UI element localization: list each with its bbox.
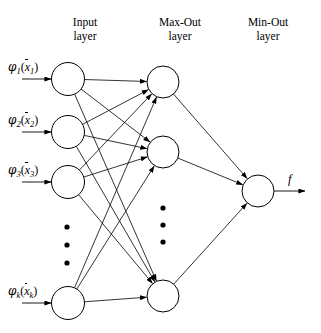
node-max-1 <box>147 66 179 98</box>
input-layer-ellipsis <box>64 224 69 265</box>
input-ellipsis-dot-2 <box>64 242 69 247</box>
maxout-ellipsis-dot-1 <box>160 205 165 210</box>
node-min-1 <box>242 175 274 207</box>
edge-in-k-to-max-n <box>84 297 146 302</box>
network-diagram-figure: Input layer Max-Out layer Min-Out layer … <box>0 0 321 333</box>
minout-layer-nodes <box>242 175 274 207</box>
node-in-3 <box>52 166 85 199</box>
edge-in-1-to-max-2 <box>81 89 150 142</box>
output-label-f: f <box>288 172 291 187</box>
node-max-2 <box>147 136 179 168</box>
edge-in-2-to-max-1 <box>83 90 149 125</box>
maxout-layer-ellipsis <box>160 205 165 244</box>
node-in-2 <box>52 116 85 149</box>
edge-in-k-to-max-1 <box>75 97 157 288</box>
input-label-phi-1: φ1(x1) <box>8 60 38 76</box>
edge-max-n-to-min-1 <box>174 203 247 284</box>
input-layer-nodes <box>52 63 85 320</box>
maxout-ellipsis-dot-3 <box>160 239 165 244</box>
node-in-k <box>52 287 85 320</box>
node-in-1 <box>52 63 85 96</box>
maxout-ellipsis-dot-2 <box>160 222 165 227</box>
edge-in-3-to-max-n <box>79 195 153 284</box>
network-graph-svg <box>0 0 321 333</box>
edge-in-3-to-max-2 <box>84 157 148 177</box>
edge-in-k-to-max-2 <box>77 166 154 289</box>
input-label-phi-k: φk(xk) <box>8 284 37 300</box>
edge-max-1-to-min-1 <box>174 94 248 178</box>
edge-in-1-to-max-1 <box>84 80 146 82</box>
edges-maxout-to-minout <box>174 94 248 284</box>
input-ellipsis-dot-1 <box>64 224 69 229</box>
edges-input-to-maxout <box>75 80 157 302</box>
input-label-phi-2: φ2(x2) <box>8 113 38 129</box>
input-ellipsis-dot-3 <box>64 260 69 265</box>
input-label-phi-3: φ3(x3) <box>8 163 38 179</box>
node-max-n <box>147 280 179 312</box>
maxout-layer-nodes <box>147 66 179 312</box>
